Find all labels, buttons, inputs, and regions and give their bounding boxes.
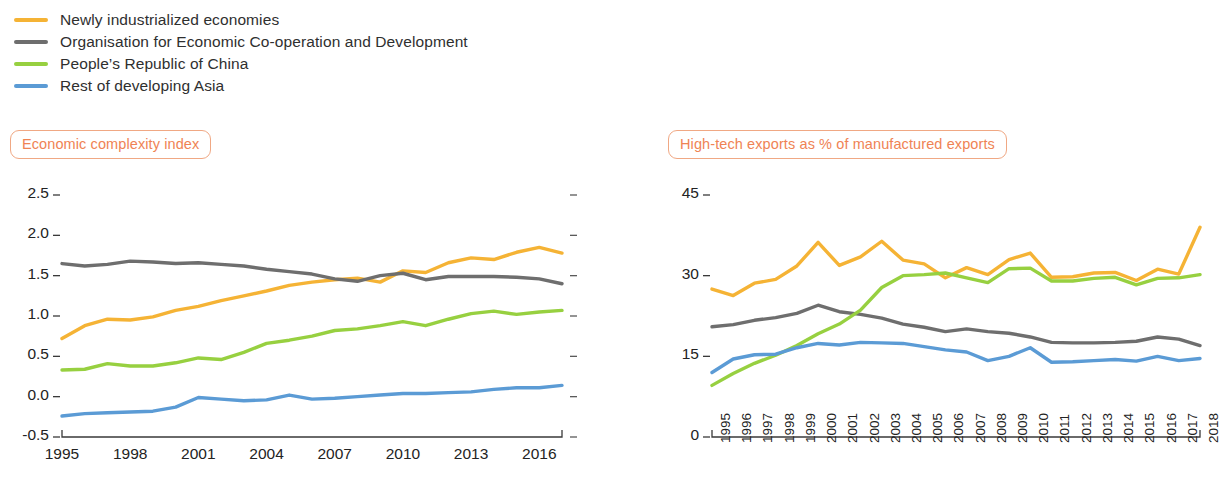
x-tick-label: 2003 [888, 413, 903, 443]
x-tick-label: 2013 [1100, 413, 1115, 443]
y-tick-label: 0.0 [27, 386, 49, 404]
plot-high-tech-exports: 0153045199519961997199819992000200120022… [668, 183, 1216, 483]
x-tick-label: 2001 [168, 445, 228, 463]
legend-swatch-oecd [14, 40, 48, 44]
legend-swatch-rda [14, 84, 48, 88]
x-tick-label: 1998 [782, 413, 797, 443]
x-tick-label: 2016 [1164, 413, 1179, 443]
legend-label-rda: Rest of developing Asia [60, 77, 224, 95]
x-tick-label: 2014 [1121, 413, 1136, 443]
x-tick-label: 2001 [845, 413, 860, 443]
x-tick-label: 2012 [1079, 413, 1094, 443]
chart-canvas-left [10, 183, 610, 483]
x-tick-label: 2007 [973, 413, 988, 443]
x-tick-label: 1997 [760, 413, 775, 443]
panel-economic-complexity-index: Economic complexity index -0.50.00.51.01… [10, 130, 610, 483]
x-tick-label: 2017 [1185, 413, 1200, 443]
y-tick-label: 1.5 [27, 265, 49, 283]
panel-high-tech-exports: High-tech exports as % of manufactured e… [668, 130, 1216, 483]
panel-title-left: Economic complexity index [10, 130, 211, 159]
legend-item-rda: Rest of developing Asia [14, 75, 634, 97]
y-tick-label: 2.0 [27, 224, 49, 242]
x-tick-label: 2013 [441, 445, 501, 463]
x-tick-label: 1996 [739, 413, 754, 443]
y-tick-label: 0.5 [27, 345, 49, 363]
legend-item-oecd: Organisation for Economic Co-operation a… [14, 31, 634, 53]
x-tick-label: 2015 [1142, 413, 1157, 443]
plot-economic-complexity-index: -0.50.00.51.01.52.02.5199519982001200420… [10, 183, 610, 483]
y-tick-label: 45 [682, 184, 699, 202]
legend-label-oecd: Organisation for Economic Co-operation a… [60, 33, 468, 51]
y-tick-label: 1.0 [27, 305, 49, 323]
x-tick-label: 2010 [373, 445, 433, 463]
y-tick-label: 2.5 [27, 184, 49, 202]
x-tick-label: 2016 [509, 445, 569, 463]
legend-swatch-nie [14, 18, 48, 22]
x-tick-label: 2005 [930, 413, 945, 443]
legend: Newly industrialized economies Organisat… [14, 9, 634, 97]
x-tick-label: 2006 [951, 413, 966, 443]
legend-label-prc: People’s Republic of China [60, 55, 248, 73]
legend-swatch-prc [14, 62, 48, 66]
x-tick-label: 2000 [824, 413, 839, 443]
legend-item-prc: People’s Republic of China [14, 53, 634, 75]
x-tick-label: 1995 [718, 413, 733, 443]
x-tick-label: 2004 [909, 413, 924, 443]
y-tick-label: -0.5 [22, 426, 49, 444]
x-tick-label: 1995 [32, 445, 92, 463]
y-tick-label: 30 [682, 265, 699, 283]
panel-title-right: High-tech exports as % of manufactured e… [668, 130, 1007, 159]
x-tick-label: 2018 [1206, 413, 1221, 443]
x-tick-label: 2004 [237, 445, 297, 463]
x-tick-label: 2010 [1036, 413, 1051, 443]
legend-label-nie: Newly industrialized economies [60, 11, 279, 29]
x-tick-label: 2008 [994, 413, 1009, 443]
x-tick-label: 1999 [803, 413, 818, 443]
y-tick-label: 15 [682, 345, 699, 363]
x-tick-label: 2009 [1015, 413, 1030, 443]
x-tick-label: 2002 [867, 413, 882, 443]
y-tick-label: 0 [690, 426, 699, 444]
legend-item-nie: Newly industrialized economies [14, 9, 634, 31]
x-tick-label: 1998 [100, 445, 160, 463]
x-tick-label: 2011 [1057, 414, 1072, 443]
x-tick-label: 2007 [305, 445, 365, 463]
